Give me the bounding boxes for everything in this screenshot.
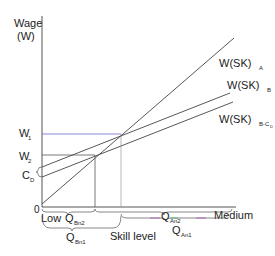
line-wsk-a xyxy=(42,38,234,204)
label-wsk-b-cd: W(SK) xyxy=(219,113,251,125)
cd-brace xyxy=(36,167,42,177)
label-wsk-a: W(SK) xyxy=(219,57,251,69)
line-wsk-b xyxy=(42,93,230,167)
y-axis-unit: (W) xyxy=(17,30,35,42)
x-axis-title: Skill level xyxy=(110,230,156,242)
label-wsk-b-cd-sub: B-C xyxy=(259,121,270,127)
label-wsk-b-sub: B xyxy=(267,87,271,93)
w2-sub: 2 xyxy=(28,158,32,164)
w1-sub: 1 xyxy=(28,135,32,141)
label-wsk-a-sub: A xyxy=(259,65,263,71)
qbn2-label: Q xyxy=(65,212,74,224)
qan1-sub: An1 xyxy=(181,232,192,238)
label-wsk-b-cd-subsub: D xyxy=(270,124,273,129)
qan1-label: Q xyxy=(172,224,181,236)
x-low-label: Low xyxy=(41,212,61,224)
x-medium-label: Medium xyxy=(214,209,253,221)
y-axis-label: Wage xyxy=(14,17,42,29)
qbn2-sub: Bn2 xyxy=(74,220,85,226)
cd-sub: D xyxy=(30,177,35,183)
cd-label: C xyxy=(22,169,30,181)
origin-label: 0 xyxy=(34,204,40,215)
line-wsk-b-cd xyxy=(42,102,233,177)
qan2-label: Q xyxy=(161,210,170,222)
qbn1-label: Q xyxy=(66,231,75,243)
wage-skill-diagram: Wage (W) W 1 W 2 C D W(SK) A W(SK) B W(S… xyxy=(0,0,275,256)
qbn1-sub: Bn1 xyxy=(75,239,86,245)
label-wsk-b: W(SK) xyxy=(227,79,259,91)
